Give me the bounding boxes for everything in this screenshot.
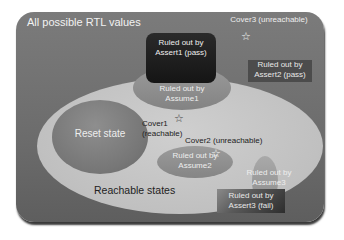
assert3-label-line2: Assert3 (fail) xyxy=(217,201,285,211)
all-rtl-values-label: All possible RTL values xyxy=(27,16,141,28)
cover1-label-line2: (reachable) xyxy=(142,129,182,139)
assert2-label-line1: Ruled out by xyxy=(248,60,312,70)
cover3-label: Cover3 (unreachable) xyxy=(224,15,314,25)
assert3-label-line1: Ruled out by xyxy=(217,191,285,201)
assert1-label: Ruled out by Assert1 (pass) xyxy=(146,38,216,58)
assume1-label-line1: Ruled out by xyxy=(140,84,224,94)
assume3-label-line2: Assume3 xyxy=(236,178,302,188)
cover2-label: Cover2 (unreachable) xyxy=(185,136,262,146)
cover2-star-icon: ☆ xyxy=(211,148,221,159)
assume2-label-line2: Assume2 xyxy=(160,161,230,171)
assume1-label: Ruled out by Assume1 xyxy=(140,84,224,104)
assume1-label-line2: Assume1 xyxy=(140,94,224,104)
reset-state-label: Reset state xyxy=(60,129,140,139)
assert1-label-line2: Assert1 (pass) xyxy=(146,48,216,58)
reachable-states-label: Reachable states xyxy=(94,184,175,196)
cover1-star-icon: ☆ xyxy=(174,113,184,124)
rtl-values-diagram: All possible RTL values Ruled out by Ass… xyxy=(0,0,344,240)
assert2-box: Ruled out by Assert2 (pass) xyxy=(248,60,312,82)
assume3-label: Ruled out by Assume3 xyxy=(236,168,302,188)
assert2-label-line2: Assert2 (pass) xyxy=(248,70,312,80)
assert1-label-line1: Ruled out by xyxy=(146,38,216,48)
assume3-label-line1: Ruled out by xyxy=(236,168,302,178)
assert3-box: Ruled out by Assert3 (fail) xyxy=(217,189,285,213)
cover3-star-icon: ☆ xyxy=(241,31,251,42)
